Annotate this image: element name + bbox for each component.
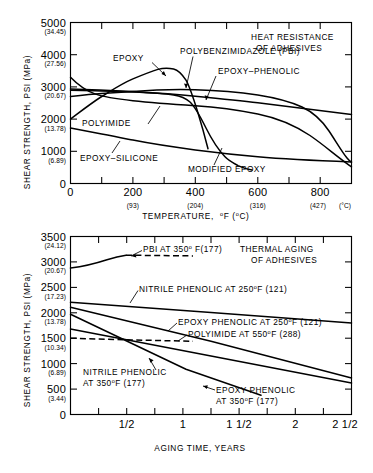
adhesive-charts-figure: SHEAR STRENGTH, PSI (MPa) 5000 (34.45) 4… [0, 0, 373, 473]
top-y-sub-4000: (27.56) [44, 60, 66, 68]
top-x-label-400: 400 [186, 186, 205, 198]
bottom-x-label-half: 1/2 [119, 418, 135, 430]
top-x-sub-200: (93) [127, 202, 139, 210]
svg-text:EPOXY PHENOLIC AT 250oF (121): EPOXY PHENOLIC AT 250oF (121) [178, 317, 322, 327]
bottom-x-label-1half: 1 1/2 [226, 418, 251, 430]
top-x-sub-400: (204) [187, 202, 203, 210]
top-y-label-3000: 3000 [41, 81, 66, 93]
leader-polyimide [148, 106, 160, 124]
bottom-chart-title-line1: THERMAL AGING [240, 244, 314, 254]
top-y-tick-labels: 5000 (34.45) 4000 (27.56) 3000 (20.67) 2… [41, 17, 66, 190]
bottom-y-label-3500: 3500 [41, 231, 66, 243]
leader-modified-epoxy [214, 148, 222, 165]
bottom-y-label-0: 0 [60, 409, 66, 421]
annotation-epoxy-350f: EPOXY PHENOLIC AT 350oF (177) [203, 385, 295, 406]
label-polyimide: POLYIMIDE [82, 118, 131, 128]
bottom-chart: SHEAR STRENGTH, PSI (MPa) 3500 (24.12) 3… [22, 231, 358, 454]
leader-epoxy-silicone [112, 141, 120, 153]
epoxy-350f-line1: EPOXY PHENOLIC [216, 385, 295, 395]
leader-polyimide-550f [178, 335, 187, 341]
top-x-tick-labels: 0 200 (93) 400 (204) 600 (316) 800 (427)… [67, 186, 351, 210]
nitrile-350f-line1: NITRILE PHENOLIC [83, 367, 167, 377]
label-epoxy: EPOXY [113, 53, 144, 63]
annotation-nitrile-350f: NITRILE PHENOLIC AT 350oF (177) [83, 358, 167, 388]
svg-text:NITRILE PHENOLIC AT 250oF (121: NITRILE PHENOLIC AT 250oF (121) [139, 284, 287, 294]
top-y-label-5000: 5000 [41, 17, 66, 29]
leader-pbi-arrow [184, 84, 188, 88]
bottom-y-label-1500: 1500 [41, 332, 66, 344]
top-y-sub-3000: (20.67) [44, 92, 66, 100]
top-y-label-0: 0 [60, 178, 66, 190]
svg-text:AT 350oF (177): AT 350oF (177) [83, 378, 145, 388]
bottom-y-tick-labels: 3500 (24.12) 3000 (20.67) 2500 (17.23) 2… [41, 231, 66, 421]
label-epoxy-silicone: EPOXY–SILICONE [80, 153, 158, 163]
leader-epoxy-arrow [162, 71, 167, 76]
bottom-y-sub-2500: (17.23) [44, 293, 66, 301]
bottom-y-sub-1000: (6.89) [48, 369, 66, 377]
top-y-sub-2000: (13.78) [44, 125, 66, 133]
top-x-axis-title-text: TEMPERATURE, [142, 211, 214, 221]
bottom-y-sub-3000: (20.67) [44, 267, 66, 275]
top-x-axis-unit: oF (oC) [220, 211, 249, 221]
line-pbi-350f-dashed [126, 255, 193, 256]
bottom-y-sub-3500: (24.12) [44, 242, 66, 250]
top-x-sub-800: (427) [310, 202, 326, 210]
bottom-x-tick-labels: 1/2 1 1 1/2 2 2 1/2 [119, 418, 358, 430]
annotation-polyimide-550f: POLYIMIDE AT 550oF (288) [178, 329, 301, 341]
leader-nitrile-350f-arrow [149, 358, 154, 363]
leader-epoxy-350f-arrow [203, 385, 208, 389]
top-x-label-800: 800 [311, 186, 330, 198]
leader-epoxy-250f [168, 323, 177, 331]
bottom-y-sub-500: (3.44) [48, 395, 66, 403]
top-x-axis-title: TEMPERATURE, oF (oC) [142, 211, 249, 221]
top-y-label-2000: 2000 [41, 113, 66, 125]
top-x-label-200: 200 [123, 186, 142, 198]
bottom-y-axis-title: SHEAR STRENGTH, PSI (MPa) [22, 273, 32, 407]
top-x-unit-celsius: (°C) [339, 202, 351, 210]
label-epoxy-phenolic: EPOXY–PHENOLIC [218, 66, 300, 76]
top-x-label-600: 600 [248, 186, 267, 198]
svg-text:PBI AT 350o F(177): PBI AT 350o F(177) [143, 244, 222, 254]
bottom-x-label-2half: 2 1/2 [332, 418, 357, 430]
svg-text:POLYIMIDE AT 550oF (288): POLYIMIDE AT 550oF (288) [188, 329, 301, 339]
top-x-label-0: 0 [67, 186, 73, 198]
bottom-y-label-2500: 2500 [41, 281, 66, 293]
annotation-nitrile-250f: NITRILE PHENOLIC AT 250oF (121) [130, 284, 287, 303]
top-y-sub-1000: (6.89) [48, 157, 66, 165]
label-modified-epoxy: MODIFIED EPOXY [188, 164, 266, 174]
leader-polybenzimidazole [186, 57, 193, 89]
bottom-y-sub-2000: (13.78) [44, 318, 66, 326]
bottom-x-axis-title: AGING TIME, YEARS [154, 443, 246, 453]
bottom-y-sub-1500: (10.34) [44, 344, 66, 352]
svg-text:AT 350oF (177): AT 350oF (177) [216, 396, 278, 406]
bottom-y-label-500: 500 [47, 383, 66, 395]
top-y-label-1000: 1000 [41, 145, 66, 157]
top-chart-title-line2: OF ADHESIVES [256, 43, 322, 53]
bottom-x-label-1: 1 [180, 418, 186, 430]
bottom-y-label-1000: 1000 [41, 358, 66, 370]
top-chart: SHEAR STRENGTH, PSI (MPa) 5000 (34.45) 4… [22, 17, 352, 222]
top-chart-title-line1: HEAT RESISTANCE [251, 32, 334, 42]
top-y-axis-title: SHEAR STRENGTH, PSI (MPa) [22, 55, 32, 189]
top-x-sub-600: (316) [250, 202, 266, 210]
top-y-sub-5000: (34.45) [44, 28, 66, 36]
line-pbi-350f-solid [71, 255, 127, 268]
bottom-chart-title-line2: OF ADHESIVES [251, 255, 317, 265]
top-y-label-4000: 4000 [41, 49, 66, 61]
bottom-x-label-2: 2 [292, 418, 298, 430]
bottom-y-label-2000: 2000 [41, 307, 66, 319]
bottom-y-label-3000: 3000 [41, 256, 66, 268]
leader-nitrile-250f [130, 291, 138, 304]
